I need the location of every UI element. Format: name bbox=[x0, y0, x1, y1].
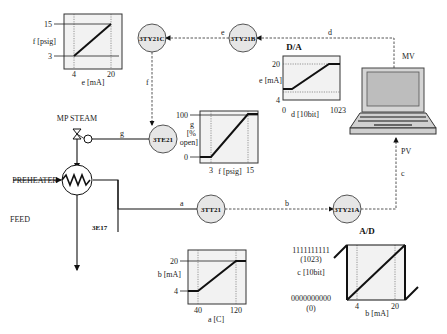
svg-text:(0): (0) bbox=[306, 304, 316, 313]
signal-c-line bbox=[361, 138, 396, 209]
heat-exchanger-3e17[interactable] bbox=[62, 165, 92, 195]
svg-text:4: 4 bbox=[174, 287, 178, 296]
svg-text:b [mA]: b [mA] bbox=[365, 309, 389, 318]
svg-text:20: 20 bbox=[272, 60, 280, 69]
svg-text:open]: open] bbox=[180, 138, 199, 147]
svg-text:1023: 1023 bbox=[330, 106, 346, 115]
svg-text:120: 120 bbox=[230, 306, 242, 315]
instrument-3ty21b[interactable]: 3TY21B bbox=[229, 24, 257, 52]
svg-text:20: 20 bbox=[391, 302, 399, 311]
svg-text:4: 4 bbox=[276, 96, 280, 105]
svg-text:e [mA]: e [mA] bbox=[259, 76, 282, 85]
pv-label: PV bbox=[401, 147, 411, 156]
exchanger-tag: 3E17 bbox=[92, 224, 108, 232]
y-axis-label: f [psig] bbox=[33, 37, 57, 46]
process-control-diagram: 15 3 f [psig] 4 20 e [mA] 3TY21C 3TY21B … bbox=[0, 0, 447, 334]
svg-text:3TY21A: 3TY21A bbox=[334, 206, 359, 214]
svg-text:3TY21B: 3TY21B bbox=[231, 35, 256, 43]
svg-text:c [10bit]: c [10bit] bbox=[297, 268, 325, 277]
signal-a-label: a bbox=[180, 199, 184, 208]
svg-text:4: 4 bbox=[355, 302, 359, 311]
plot-valve: 100 0 g [% open] 3 f [psig] 15 bbox=[176, 111, 258, 176]
svg-text:d [10bit]: d [10bit] bbox=[291, 110, 319, 119]
svg-text:b [mA]: b [mA] bbox=[158, 270, 182, 279]
instrument-3tt21[interactable]: 3TT21 bbox=[197, 195, 225, 223]
svg-text:[%: [% bbox=[187, 129, 197, 138]
instrument-3ty21a[interactable]: 3TY21A bbox=[333, 195, 361, 223]
plot-tt: 20 4 b [mA] 40 120 a [C] bbox=[158, 250, 246, 324]
feed-label: FEED bbox=[10, 215, 30, 224]
x-axis-label: e [mA] bbox=[82, 78, 105, 87]
svg-text:1111111111: 1111111111 bbox=[292, 246, 329, 255]
mv-label: MV bbox=[402, 52, 415, 61]
signal-d-label: d bbox=[328, 28, 332, 37]
plot-da: D/A 20 4 e [mA] 0 d [10bit] 1023 bbox=[259, 42, 346, 119]
x-tick-high: 20 bbox=[107, 70, 115, 79]
plot-e-to-f: 15 3 f [psig] 4 20 e [mA] bbox=[33, 14, 122, 87]
svg-text:40: 40 bbox=[194, 306, 202, 315]
svg-text:0000000000: 0000000000 bbox=[291, 294, 331, 303]
x-tick-low: 4 bbox=[72, 70, 76, 79]
mp-steam-label: MP STEAM bbox=[57, 114, 97, 123]
da-title: D/A bbox=[286, 42, 302, 52]
instrument-3ty21c[interactable]: 3TY21C bbox=[138, 24, 166, 52]
svg-text:a [C]: a [C] bbox=[208, 315, 225, 324]
laptop-computer[interactable] bbox=[350, 68, 436, 134]
y-tick-high: 15 bbox=[44, 20, 52, 29]
svg-text:3: 3 bbox=[209, 166, 213, 175]
svg-text:(1023): (1023) bbox=[300, 255, 322, 264]
signal-b-label: b bbox=[285, 199, 289, 208]
svg-text:3TT21: 3TT21 bbox=[201, 206, 221, 214]
instrument-3te21[interactable]: 3TE21 bbox=[149, 125, 177, 153]
y-tick-low: 3 bbox=[48, 52, 52, 61]
svg-text:100: 100 bbox=[176, 111, 188, 120]
svg-text:0: 0 bbox=[184, 153, 188, 162]
svg-text:g: g bbox=[190, 120, 194, 129]
control-valve[interactable] bbox=[73, 129, 92, 143]
svg-text:20: 20 bbox=[170, 257, 178, 266]
svg-text:15: 15 bbox=[246, 166, 254, 175]
signal-c-label: c bbox=[401, 169, 405, 178]
signal-e-label: e bbox=[221, 28, 225, 37]
ad-title: A/D bbox=[359, 226, 375, 236]
svg-text:0: 0 bbox=[282, 106, 286, 115]
svg-text:f [psig]: f [psig] bbox=[218, 167, 242, 176]
plot-ad: A/D 1111111111 (1023) c [10bit] 00000000… bbox=[291, 226, 418, 318]
svg-text:3TE21: 3TE21 bbox=[153, 136, 173, 144]
svg-text:3TY21C: 3TY21C bbox=[139, 35, 164, 43]
signal-f-label: f bbox=[146, 78, 149, 87]
signal-g-label: g bbox=[120, 129, 124, 138]
